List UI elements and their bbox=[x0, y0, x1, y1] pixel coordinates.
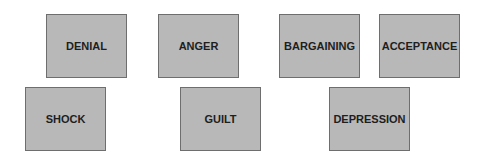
stage-label: DEPRESSION bbox=[333, 113, 405, 125]
stage-label: BARGAINING bbox=[284, 40, 355, 52]
stage-box-anger: ANGER bbox=[158, 14, 239, 78]
stage-box-bargaining: BARGAINING bbox=[279, 14, 360, 78]
stage-box-guilt: GUILT bbox=[180, 87, 261, 151]
stage-box-acceptance: ACCEPTANCE bbox=[379, 14, 460, 78]
stage-box-denial: DENIAL bbox=[46, 14, 127, 78]
stage-box-shock: SHOCK bbox=[25, 87, 106, 151]
stage-label: ACCEPTANCE bbox=[382, 40, 458, 52]
stage-label: DENIAL bbox=[66, 40, 107, 52]
stage-label: GUILT bbox=[204, 113, 236, 125]
stage-label: SHOCK bbox=[46, 113, 86, 125]
stage-box-depression: DEPRESSION bbox=[329, 87, 410, 151]
stage-label: ANGER bbox=[179, 40, 219, 52]
